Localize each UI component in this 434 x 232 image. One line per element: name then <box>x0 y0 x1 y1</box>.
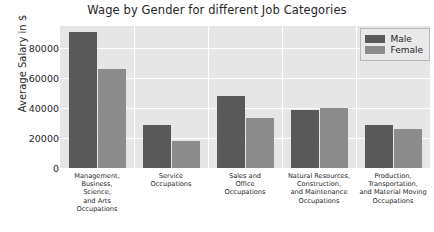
y-tick-label-0: 0 <box>7 163 59 174</box>
y-tick-label-40000: 40000 <box>7 103 59 114</box>
x-tick-label-4: Production,Transportation,and Material M… <box>350 172 434 205</box>
y-tick-label-20000: 20000 <box>7 133 59 144</box>
legend-item-female[interactable]: Female <box>365 45 423 55</box>
chart-figure: Wage by Gender for different Job Categor… <box>0 0 434 232</box>
legend: Male Female <box>360 28 430 61</box>
chart-title: Wage by Gender for different Job Categor… <box>0 3 434 17</box>
legend-item-male[interactable]: Male <box>365 34 423 44</box>
y-tick-label-80000: 80000 <box>7 43 59 54</box>
legend-swatch-female-icon <box>365 46 385 54</box>
x-axis-ticks: Management,Business,Science,and ArtsOccu… <box>60 172 430 232</box>
y-tick-label-60000: 60000 <box>7 73 59 84</box>
legend-swatch-male-icon <box>365 35 385 43</box>
legend-label-female: Female <box>390 45 423 55</box>
legend-label-male: Male <box>390 34 411 44</box>
